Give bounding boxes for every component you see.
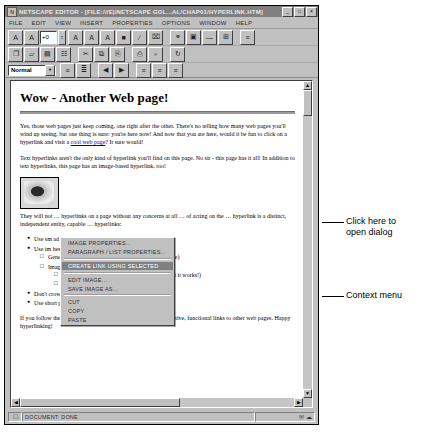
paragraph-toolbar: Normal ▼ ≡ ≣ ◀ ▶ ≡ ≡ ≡: [5, 63, 318, 78]
find-button[interactable]: ⌕: [148, 47, 163, 62]
font-size-spinner[interactable]: ↕: [58, 30, 66, 45]
increase-font-size-button[interactable]: A: [24, 30, 39, 45]
close-button[interactable]: ×: [306, 7, 317, 17]
netscape-icon[interactable]: N: [7, 7, 17, 17]
context-menu-item-save-image-as[interactable]: Save Image as...: [62, 284, 173, 293]
menu-item-help[interactable]: Help: [236, 20, 252, 26]
open-file-button[interactable]: ▱: [24, 47, 39, 62]
paragraph-1-pre: Yes, those web pages just keep coming, o…: [20, 123, 287, 145]
scroll-down-button[interactable]: ▼: [303, 389, 312, 398]
status-bar: ☐ Document: Done ✉ ☁: [8, 412, 315, 422]
scroll-up-button[interactable]: ▲: [303, 81, 312, 90]
vertical-scroll-thumb[interactable]: [303, 90, 312, 116]
context-menu-item-paste[interactable]: Paste: [62, 315, 173, 324]
decrease-font-size-button[interactable]: A: [8, 30, 23, 45]
horizontal-scrollbar[interactable]: ◀ ▶: [11, 398, 303, 407]
bold-button[interactable]: A: [68, 30, 83, 45]
menu-item-file[interactable]: File: [9, 20, 22, 26]
scroll-right-button[interactable]: ▶: [294, 398, 303, 407]
insert-target-button[interactable]: ≡: [240, 30, 255, 45]
menu-item-edit[interactable]: Edit: [31, 20, 45, 26]
new-document-button[interactable]: ❐: [8, 47, 23, 62]
align-left-button[interactable]: ≡: [136, 63, 151, 78]
scrollbar-corner: [303, 398, 312, 407]
eye-image[interactable]: [20, 177, 59, 209]
align-right-button[interactable]: ≡: [168, 63, 183, 78]
make-link-button[interactable]: ⚭: [170, 30, 185, 45]
align-center-button[interactable]: ≡: [152, 63, 167, 78]
menu-bar: File Edit View Insert Properties Options…: [5, 17, 318, 29]
status-message: Document: Done: [22, 412, 255, 422]
fixed-width-button[interactable]: A: [100, 30, 115, 45]
status-right-icons: ✉ ☁: [255, 412, 315, 422]
annotation-click-here: Click here to open dialog: [346, 216, 396, 238]
window-title: Netscape Editor - [file:///E|/Netscape G…: [19, 9, 282, 15]
page-title: Wow - Another Web page!: [20, 90, 295, 106]
browse-document-button[interactable]: ☷: [56, 47, 71, 62]
clear-style-button[interactable]: ∕: [132, 30, 147, 45]
window-controls: _ □ ×: [282, 7, 317, 17]
vertical-scrollbar[interactable]: ▲ ▼: [303, 81, 312, 398]
context-menu-separator: [64, 272, 171, 274]
scroll-left-button[interactable]: ◀: [11, 398, 20, 407]
file-toolbar: ❐ ▱ ▤ ☷ ✂ ⧉ ⎘ ⎙ ⌕ ↻: [5, 46, 318, 63]
annotation-leader-2: [322, 296, 344, 297]
paragraph-style-value: Normal: [11, 67, 32, 73]
paragraph-style-select[interactable]: Normal ▼: [8, 65, 56, 76]
paragraph-2: Text hyperlinks aren't the only kind of …: [20, 154, 295, 170]
insert-table-button[interactable]: ⊞: [218, 30, 233, 45]
maximize-button[interactable]: □: [294, 7, 305, 17]
annotation-context-menu: Context menu: [346, 290, 402, 301]
context-menu-item-paragraph-list-properties[interactable]: Paragraph / List Properties...: [62, 248, 173, 257]
horizontal-scroll-thumb[interactable]: [20, 398, 180, 407]
cut-button[interactable]: ✂: [78, 47, 93, 62]
bullet-2-left: Use im: [34, 246, 51, 252]
context-menu-item-edit-image[interactable]: Edit Image...: [62, 275, 173, 284]
menu-item-view[interactable]: View: [55, 20, 71, 26]
italic-button[interactable]: A: [84, 30, 99, 45]
menu-item-window[interactable]: Window: [199, 20, 227, 26]
publish-button[interactable]: ↻: [170, 47, 185, 62]
minimize-button[interactable]: _: [282, 7, 293, 17]
paragraph-3: They will not … hyperlinks on a page wit…: [20, 212, 295, 228]
title-bar[interactable]: N Netscape Editor - [file:///E|/Netscape…: [5, 6, 318, 17]
menu-item-properties[interactable]: Properties: [112, 20, 153, 26]
bullet-list-button[interactable]: ≡: [60, 63, 75, 78]
context-menu-item-cut[interactable]: Cut: [62, 298, 173, 307]
numbered-list-button[interactable]: ≣: [76, 63, 91, 78]
remove-links-button[interactable]: ⌧: [148, 30, 163, 45]
paragraph-1-post: ? It sure would!: [105, 139, 143, 145]
save-file-button[interactable]: ▤: [40, 47, 55, 62]
context-menu-separator: [64, 258, 171, 260]
character-format-toolbar: A A +0 ↕ A A A ■ ∕ ⌧ ⚭ ▣ — ⊞ ≡: [5, 29, 318, 46]
menu-item-insert[interactable]: Insert: [80, 20, 103, 26]
paragraph-1: Yes, those web pages just keep coming, o…: [20, 122, 295, 147]
insert-image-button[interactable]: ▣: [186, 30, 201, 45]
annotation-leader-1: [322, 222, 344, 223]
context-menu-item-copy[interactable]: Copy: [62, 307, 173, 316]
increase-indent-button[interactable]: ▶: [114, 63, 129, 78]
paste-button[interactable]: ⎘: [110, 47, 125, 62]
decrease-indent-button[interactable]: ◀: [98, 63, 113, 78]
copy-button[interactable]: ⧉: [94, 47, 109, 62]
cool-web-page-link[interactable]: cool web page: [71, 139, 106, 145]
context-menu-item-image-properties[interactable]: Image Properties...: [62, 239, 173, 248]
context-menu-item-create-link-using-selected[interactable]: Create Link Using Selected: [62, 262, 173, 271]
context-menu-separator: [64, 294, 171, 296]
netscape-editor-window: N Netscape Editor - [file:///E|/Netscape…: [4, 5, 319, 425]
font-color-button[interactable]: ■: [116, 30, 131, 45]
print-button[interactable]: ⎙: [132, 47, 147, 62]
insert-horizontal-line-button[interactable]: —: [202, 30, 217, 45]
menu-item-options[interactable]: Options: [162, 20, 190, 26]
document-icon: ☐: [8, 412, 22, 422]
horizontal-rule: [20, 111, 295, 114]
context-menu[interactable]: Image Properties... Paragraph / List Pro…: [60, 237, 175, 326]
eye-icon: [24, 181, 54, 204]
chevron-down-icon[interactable]: ▼: [45, 65, 55, 76]
font-size-field[interactable]: +0: [40, 31, 57, 44]
bullet-1-left: Use sm: [34, 236, 52, 242]
